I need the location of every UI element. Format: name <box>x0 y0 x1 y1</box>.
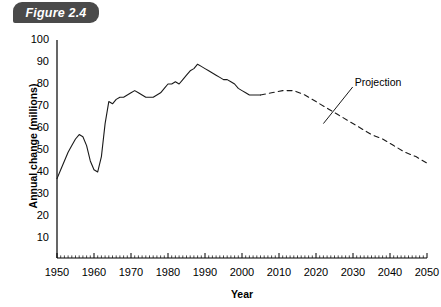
annotation-leader-line <box>323 87 352 124</box>
series-line-projection <box>261 91 428 164</box>
figure-container: Figure 2.4 Annual change (millions) Year… <box>0 0 441 307</box>
axis-lines <box>57 40 427 258</box>
annotation-pointer <box>323 87 352 124</box>
projection-annotation-label: Projection <box>355 76 402 88</box>
axis-tick-marks <box>57 253 427 258</box>
series-line-historical <box>57 64 261 178</box>
chart-plot-area <box>0 0 441 307</box>
